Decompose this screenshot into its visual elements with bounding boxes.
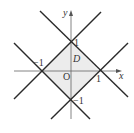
y-axis-arrow-icon — [69, 10, 73, 16]
y-pos-tick-label: 1 — [74, 37, 79, 48]
x-neg-tick-label: −1 — [33, 57, 44, 68]
origin-label: O — [63, 71, 70, 82]
x-axis-label: x — [118, 70, 124, 81]
y-neg-tick-label: −1 — [73, 95, 84, 106]
y-axis-label: y — [62, 7, 68, 18]
diagram-canvas: y x O D 1 1 −1 −1 — [0, 0, 134, 133]
x-pos-tick-label: 1 — [96, 73, 101, 84]
coordinate-plane: y x O D 1 1 −1 −1 — [0, 0, 134, 133]
region-label: D — [72, 53, 81, 64]
region-d — [42, 42, 99, 99]
